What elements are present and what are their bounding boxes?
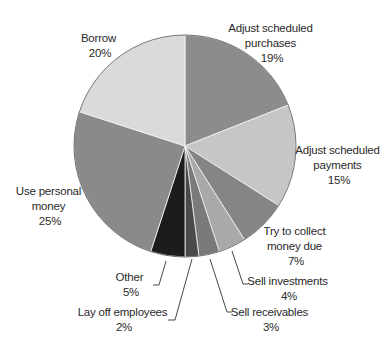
pie-chart: Adjust scheduled purchases 19% Adjust sc… [0, 0, 392, 347]
label-layoff: Lay off employees 2% [78, 306, 171, 333]
pie-slices [74, 35, 296, 257]
leader-line-sell-investments [232, 251, 248, 284]
label-investments: Sell investments 4% [247, 275, 331, 302]
label-collect: Try to collect money due 7% [264, 225, 329, 267]
label-other: Other 5% [116, 271, 147, 298]
leader-line-other [153, 261, 166, 285]
label-borrow: Borrow 20% [81, 32, 119, 59]
label-receivables: Sell receivables 3% [231, 306, 311, 333]
label-personal: Use personal money 25% [16, 185, 84, 227]
leader-line-sell-receivables [210, 259, 232, 312]
label-payments: Adjust scheduled payments 15% [295, 144, 382, 186]
leader-line-lay-off-employees [168, 259, 192, 320]
